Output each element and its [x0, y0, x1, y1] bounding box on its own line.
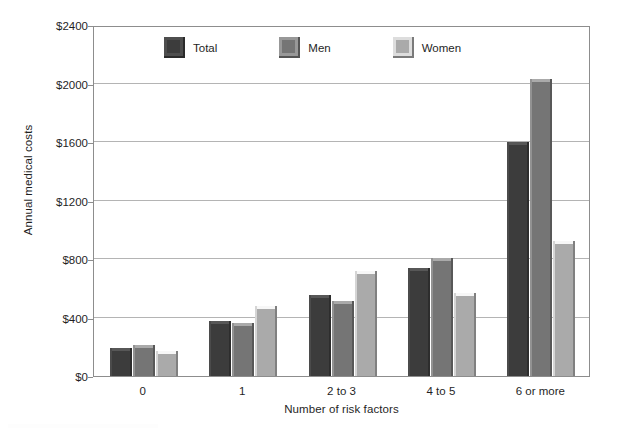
y-axis-tick-label: $2000 — [28, 79, 88, 91]
bar-bevel-right — [550, 79, 552, 376]
bar-bevel-right — [176, 351, 178, 376]
y-axis-tick-label: $1600 — [28, 137, 88, 149]
bar-bevel-right — [229, 321, 231, 376]
y-axis-tick-mark — [88, 143, 93, 144]
bar-women-2-to-3 — [355, 271, 377, 376]
y-axis-tick-label: $1200 — [28, 196, 88, 208]
bar-bevel-right — [275, 306, 277, 376]
bar-bevel-left — [232, 323, 234, 376]
bar-bevel-right — [375, 271, 377, 376]
bar-bevel-right — [130, 348, 132, 376]
bar-bevel-right — [573, 241, 575, 376]
x-axis-category-label: 0 — [139, 385, 145, 397]
legend-label: Men — [308, 42, 330, 54]
bar-face — [454, 293, 476, 376]
bar-women-4-to-5 — [454, 293, 476, 376]
bar-bevel-left — [309, 295, 311, 376]
y-axis-tick-mark — [88, 260, 93, 261]
bar-chart: Annual medical costs TotalMenWomen $0$40… — [0, 0, 629, 431]
bar-total-2-to-3 — [309, 295, 331, 376]
y-axis-tick-mark — [88, 202, 93, 203]
legend-label: Total — [193, 42, 217, 54]
legend-swatch-face — [167, 40, 180, 53]
bar-men-0 — [133, 345, 155, 376]
bar-bevel-left — [553, 241, 555, 376]
y-axis-tick-mark — [88, 377, 93, 378]
bar-bevel-top — [133, 345, 155, 348]
bar-face — [255, 306, 277, 376]
bar-face — [553, 241, 575, 376]
bar-bevel-left — [431, 258, 433, 376]
bar-bevel-left — [507, 142, 509, 376]
bar-women-1 — [255, 306, 277, 376]
bar-total-6-or-more — [507, 142, 529, 376]
bar-bevel-top — [332, 301, 354, 304]
legend-swatch-women — [393, 37, 414, 58]
legend-swatch-total — [164, 37, 185, 58]
bar-bevel-left — [332, 301, 334, 376]
bar-total-4-to-5 — [408, 268, 430, 376]
legend-swatch-face — [396, 40, 409, 53]
bar-bevel-top — [255, 306, 277, 309]
bar-face — [507, 142, 529, 376]
y-axis-tick-mark — [88, 85, 93, 86]
bar-bevel-top — [507, 142, 529, 145]
y-axis-tick-mark — [88, 26, 93, 27]
legend-swatch-face — [282, 40, 295, 53]
x-axis-category-label: 1 — [239, 385, 245, 397]
bar-bevel-left — [408, 268, 410, 376]
bar-bevel-top — [553, 241, 575, 244]
legend-swatch-men — [279, 37, 300, 58]
bar-face — [408, 268, 430, 376]
legend-item-total: Total — [164, 37, 217, 58]
bar-bevel-left — [255, 306, 257, 376]
bar-face — [156, 351, 178, 376]
y-axis-ticks: $0$400$800$1200$1600$2000$2400 — [26, 26, 88, 377]
gridline — [94, 83, 589, 84]
bar-bevel-top — [209, 321, 231, 324]
bar-bevel-top — [408, 268, 430, 271]
bar-bevel-left — [454, 293, 456, 376]
bar-women-6-or-more — [553, 241, 575, 376]
x-axis-title: Number of risk factors — [93, 403, 590, 415]
legend-item-men: Men — [279, 37, 330, 58]
y-axis-tick-mark — [88, 319, 93, 320]
bar-men-2-to-3 — [332, 301, 354, 376]
bar-bevel-right — [153, 345, 155, 376]
bar-face — [309, 295, 331, 376]
bar-face — [133, 345, 155, 376]
bar-face — [355, 271, 377, 376]
bar-bevel-top — [431, 258, 453, 261]
y-axis-tick-label: $400 — [28, 313, 88, 325]
bar-face — [110, 348, 132, 376]
bar-men-4-to-5 — [431, 258, 453, 376]
bar-bevel-top — [156, 351, 178, 354]
bar-bevel-top — [530, 79, 552, 82]
bar-bevel-right — [474, 293, 476, 376]
legend-label: Women — [422, 42, 461, 54]
bar-bevel-right — [428, 268, 430, 376]
bar-men-1 — [232, 323, 254, 376]
bar-bevel-top — [110, 348, 132, 351]
bar-bevel-left — [110, 348, 112, 376]
plot-area: TotalMenWomen — [93, 26, 590, 377]
bar-bevel-right — [527, 142, 529, 376]
bar-bevel-top — [232, 323, 254, 326]
page-artifact — [8, 424, 158, 428]
bar-bevel-right — [451, 258, 453, 376]
bar-bevel-right — [352, 301, 354, 376]
bar-men-6-or-more — [530, 79, 552, 376]
y-axis-tick-label: $0 — [28, 371, 88, 383]
chart-legend: TotalMenWomen — [164, 37, 461, 58]
y-axis-tick-label: $800 — [28, 254, 88, 266]
bar-total-1 — [209, 321, 231, 376]
bar-bevel-top — [454, 293, 476, 296]
bar-face — [332, 301, 354, 376]
bar-bevel-left — [209, 321, 211, 376]
bar-face — [232, 323, 254, 376]
bar-women-0 — [156, 351, 178, 376]
x-axis-category-label: 6 or more — [516, 385, 565, 397]
bar-bevel-left — [530, 79, 532, 376]
legend-item-women: Women — [393, 37, 461, 58]
x-axis-category-label: 4 to 5 — [427, 385, 456, 397]
